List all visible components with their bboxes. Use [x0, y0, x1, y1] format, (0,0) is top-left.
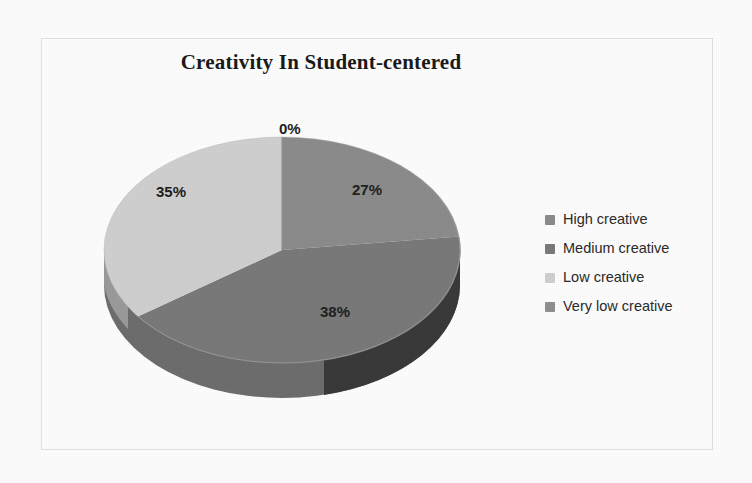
- legend-label-high-creative: High creative: [563, 212, 648, 227]
- slice-label-high-creative: 27%: [352, 181, 382, 198]
- slice-label-very-low-creative: 0%: [279, 120, 301, 137]
- legend-label-low-creative: Low creative: [563, 270, 644, 285]
- legend-label-medium-creative: Medium creative: [563, 241, 669, 256]
- slice-label-medium-creative: 38%: [320, 303, 350, 320]
- legend-swatch-icon-very-low-creative: [545, 302, 555, 312]
- legend-swatch-icon-high-creative: [545, 215, 555, 225]
- legend-item-high-creative[interactable]: High creative: [545, 205, 710, 234]
- slice-label-low-creative: 35%: [156, 183, 186, 200]
- legend-item-low-creative[interactable]: Low creative: [545, 263, 710, 292]
- chart-legend: High creative Medium creative Low creati…: [545, 205, 710, 321]
- legend-item-very-low-creative[interactable]: Very low creative: [545, 292, 710, 321]
- legend-item-medium-creative[interactable]: Medium creative: [545, 234, 710, 263]
- pie-chart-figure: Creativity In Student-centered: [0, 0, 752, 483]
- chart-title: Creativity In Student-centered: [41, 50, 601, 75]
- pie-top-face: [104, 137, 461, 364]
- pie-svg: [88, 124, 488, 404]
- pie-plot-area: [88, 124, 488, 404]
- legend-swatch-icon-low-creative: [545, 273, 555, 283]
- legend-label-very-low-creative: Very low creative: [563, 299, 673, 314]
- legend-swatch-icon-medium-creative: [545, 244, 555, 254]
